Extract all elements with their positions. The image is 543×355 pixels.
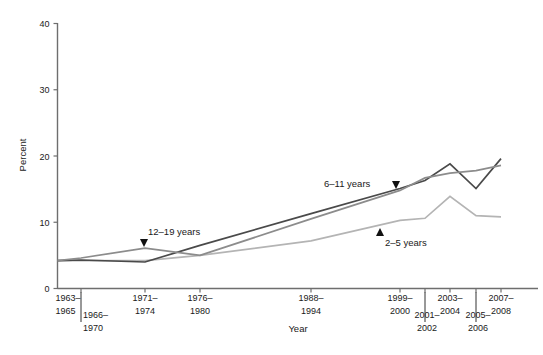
x-tick-label: 2000 [390, 306, 410, 316]
annotation-label-2-5-years: 2–5 years [385, 237, 427, 248]
x-tick-label: 1970 [83, 323, 103, 333]
annotation-2-5-years: 2–5 years [376, 228, 427, 248]
y-tick-label: 20 [39, 152, 49, 162]
y-axis-ticks: 010203040 [39, 19, 57, 294]
annotation-label-6-11-years: 6–11 years [324, 178, 371, 189]
x-tick-label: 2006 [468, 323, 488, 333]
x-tick-label: 1974 [135, 306, 155, 316]
x-tick-label: 1994 [301, 306, 321, 316]
x-tick-label: 2007– [488, 293, 513, 303]
x-tick-label: 1965 [56, 306, 76, 316]
down-triangle-icon [140, 239, 148, 247]
down-triangle-icon [392, 181, 400, 189]
annotation-12-19-years: 12–19 years [140, 226, 201, 247]
annotation-label-12-19-years: 12–19 years [148, 226, 201, 237]
x-tick-label: 2003– [437, 293, 462, 303]
x-tick-label: 1971– [132, 293, 157, 303]
x-tick-label: 1980 [190, 306, 210, 316]
y-tick-label: 40 [39, 19, 49, 29]
annotation-6-11-years: 6–11 years [324, 178, 400, 189]
x-tick-label: 1999– [387, 293, 412, 303]
y-axis-title: Percent [17, 138, 28, 171]
x-tick-label: 1988– [298, 293, 323, 303]
x-tick-label: 2005– [465, 310, 490, 320]
x-tick-label: 2002 [417, 323, 437, 333]
y-tick-label: 0 [44, 284, 49, 294]
series-line-12-19-years [58, 165, 502, 260]
x-axis-tick-labels: 1963–19651966–19701971–19741976–19801988… [56, 293, 514, 333]
x-tick-label: 1963– [56, 293, 81, 303]
chart-container: Percent 010203040 1963–19651966–19701971… [0, 0, 543, 355]
x-tick-label: 1966– [83, 310, 108, 320]
x-tick-label: 2001– [414, 310, 439, 320]
x-tick-label: 1976– [187, 293, 212, 303]
data-series-group [58, 159, 502, 262]
y-tick-label: 30 [39, 85, 49, 95]
x-axis-title: Year [288, 323, 307, 334]
line-chart: Percent 010203040 1963–19651966–19701971… [0, 0, 543, 355]
up-triangle-icon [376, 228, 384, 236]
x-tick-label: 2004 [440, 306, 460, 316]
y-tick-label: 10 [39, 218, 49, 228]
x-tick-label: 2008 [491, 306, 511, 316]
